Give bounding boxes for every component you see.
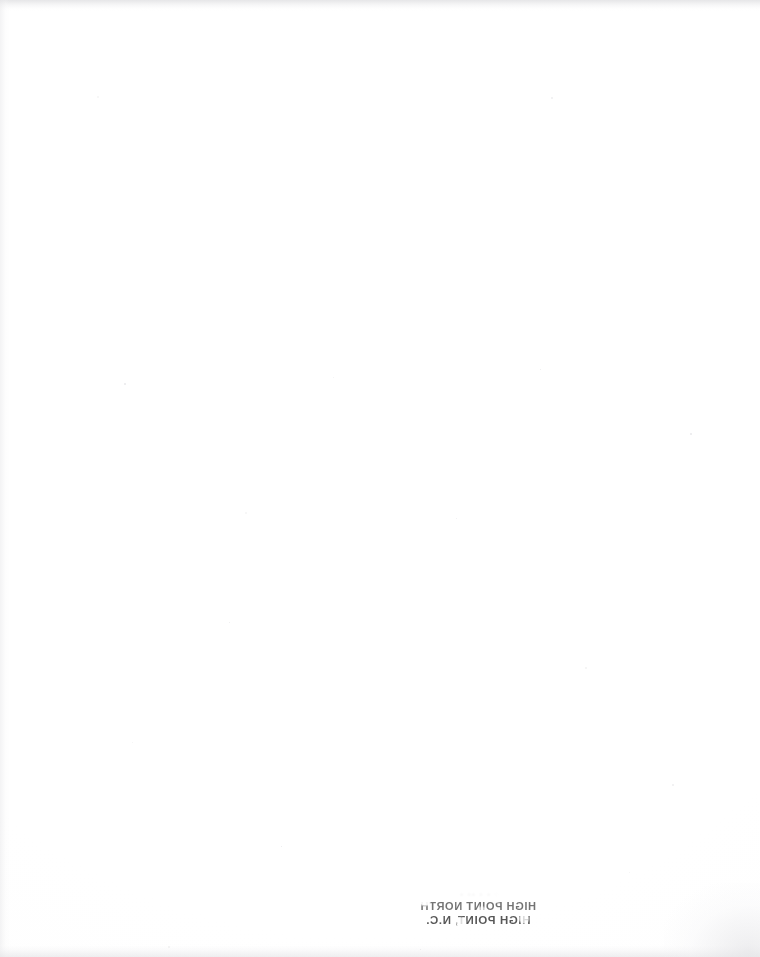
dust-speck [124,383,126,385]
show-through-line-3: HIGH POINT, N.C. [412,913,544,927]
show-through-mottling-overlay [404,885,554,943]
scanned-page: · · · ·· · HIGH POINT NORTH HIGH POINT, … [0,0,760,957]
dust-speck [132,742,133,743]
scan-edge-band-bottom [0,943,760,957]
scan-edge-band-top [0,0,760,11]
show-through-text-block: · · · ·· · HIGH POINT NORTH HIGH POINT, … [412,889,544,927]
scan-corner-smudge [664,883,760,957]
dust-speck [333,377,334,378]
paper-background [0,0,760,957]
show-through-line-2: HIGH POINT NORTH [412,900,544,913]
dust-speck [245,512,247,514]
dust-speck [420,949,421,950]
dust-speck [540,369,541,370]
dust-speck [168,946,170,948]
dust-speck [456,518,457,519]
dust-speck [690,433,692,435]
dust-speck [229,622,230,623]
dust-speck [97,96,99,98]
dust-speck [629,872,630,873]
dust-speck [281,846,282,847]
dust-speck [551,97,553,99]
dust-speck [672,784,674,786]
scan-edge-band-left [0,0,10,957]
show-through-line-1: · · · ·· · [412,889,544,900]
dust-speck [585,667,587,669]
